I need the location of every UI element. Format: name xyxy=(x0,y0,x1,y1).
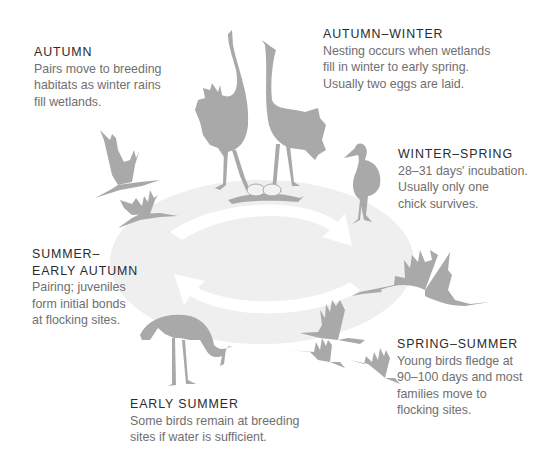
stage-autumn-winter: AUTUMN–WINTER Nesting occurs when wetlan… xyxy=(323,26,523,92)
stage-description: Nesting occurs when wetlands fill in win… xyxy=(323,43,523,93)
stage-description: Young birds fledge at 90–100 days and mo… xyxy=(397,353,537,419)
two-cranes-dancing-icon xyxy=(195,30,326,192)
stage-description: Some birds remain at breeding sites if w… xyxy=(130,413,330,446)
stage-description: Pairing; juveniles form initial bonds at… xyxy=(32,279,172,329)
stage-early-summer: EARLY SUMMER Some birds remain at breedi… xyxy=(130,396,330,446)
stage-spring-summer: SPRING–SUMMER Young birds fledge at 90–1… xyxy=(397,336,537,419)
stage-title: WINTER–SPRING xyxy=(398,146,538,163)
stage-description: 28–31 days' incubation. Usually only one… xyxy=(398,163,538,213)
stage-title: SPRING–SUMMER xyxy=(397,336,537,353)
stage-title: AUTUMN–WINTER xyxy=(323,26,523,43)
crane-life-cycle-diagram: AUTUMN Pairs move to breeding habitats a… xyxy=(0,0,539,455)
stage-autumn: AUTUMN Pairs move to breeding habitats a… xyxy=(34,44,184,110)
stage-title: EARLY SUMMER xyxy=(130,396,330,413)
stage-winter-spring: WINTER–SPRING 28–31 days' incubation. Us… xyxy=(398,146,538,212)
stage-title: SUMMER– EARLY AUTUMN xyxy=(32,246,172,279)
stage-title: AUTUMN xyxy=(34,44,184,61)
stage-description: Pairs move to breeding habitats as winte… xyxy=(34,61,184,111)
stage-summer-early-autumn: SUMMER– EARLY AUTUMN Pairing; juveniles … xyxy=(32,246,172,329)
